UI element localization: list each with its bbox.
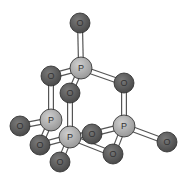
atom-label: O xyxy=(163,137,170,147)
atom-label: O xyxy=(16,121,23,131)
phosphorus-atom-p2: P xyxy=(40,109,62,131)
phosphorus-atom-p3: P xyxy=(59,126,81,148)
atom-label: P xyxy=(67,132,73,142)
oxygen-atom-o4: O xyxy=(60,83,80,103)
atom-label: P xyxy=(121,121,127,131)
oxygen-atom-o7: O xyxy=(157,132,177,152)
atom-label: O xyxy=(36,140,43,150)
atom-label: O xyxy=(47,71,54,81)
oxygen-atom-o6: O xyxy=(10,116,30,136)
oxygen-atom-o9: O xyxy=(103,144,123,164)
atom-label: O xyxy=(56,157,63,167)
oxygen-atom-o5: O xyxy=(82,124,102,144)
oxygen-atom-o2: O xyxy=(41,66,61,86)
atom-label: P xyxy=(78,63,84,73)
atom-label: O xyxy=(88,129,95,139)
atom-label: O xyxy=(120,78,127,88)
oxygen-atom-o8: O xyxy=(30,135,50,155)
oxygen-atom-o3: O xyxy=(114,73,134,93)
phosphorus-atom-p4: P xyxy=(113,115,135,137)
atom-label: P xyxy=(48,115,54,125)
phosphorus-atom-p1: P xyxy=(70,57,92,79)
oxygen-atom-o10: O xyxy=(50,152,70,172)
atom-label: O xyxy=(66,88,73,98)
atom-label: O xyxy=(109,149,116,159)
atom-label: O xyxy=(76,18,83,28)
molecule-diagram: OPOOOOPOPOOPOO xyxy=(0,0,191,187)
oxygen-atom-o1: O xyxy=(70,13,90,33)
